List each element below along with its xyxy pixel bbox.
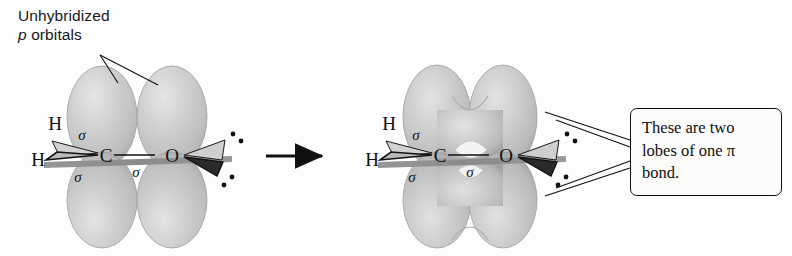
atom-label-h-bottom: H xyxy=(365,149,379,170)
atom-label-c: C xyxy=(434,145,447,166)
p-orbital-lobe-lower-oxygen xyxy=(137,152,207,248)
atom-label-o: O xyxy=(499,145,513,166)
atom-label-h-top: H xyxy=(382,113,396,134)
sigma-label-ch-top: σ xyxy=(412,127,420,143)
left-structure: H H C O σ σ σ xyxy=(31,66,243,248)
lone-pair-lower xyxy=(222,175,235,188)
orbital-diagram-figure: H H C O σ σ σ xyxy=(0,0,792,256)
right-structure: H H C O σ σ σ xyxy=(365,65,577,248)
label-p-italic: p xyxy=(18,26,27,43)
atom-label-h-top: H xyxy=(48,113,62,134)
atom-label-c: C xyxy=(100,145,113,166)
label-line-2: orbitals xyxy=(27,26,82,43)
label-line-1: Unhybridized xyxy=(18,7,110,24)
callout-line-1: These are two xyxy=(642,118,735,137)
label-unhybridized-p-orbitals: Unhybridized p orbitals xyxy=(18,6,110,44)
sigma-label-co: σ xyxy=(132,164,140,180)
sigma-label-co: σ xyxy=(466,164,474,180)
lone-pair-upper xyxy=(565,132,578,144)
pi-symbol: π xyxy=(727,141,735,160)
sigma-label-ch-top: σ xyxy=(78,127,86,143)
callout-line-3: bond. xyxy=(642,163,679,182)
callout-line-2: lobes of one xyxy=(642,141,727,160)
lone-pair-upper xyxy=(231,132,244,144)
callout-box-pi-bond: These are two lobes of one π bond. xyxy=(630,108,782,196)
atom-label-o: O xyxy=(165,145,179,166)
sigma-label-ch-bottom: σ xyxy=(74,169,82,185)
sigma-label-ch-bottom: σ xyxy=(408,169,416,185)
atom-label-h-bottom: H xyxy=(31,149,45,170)
